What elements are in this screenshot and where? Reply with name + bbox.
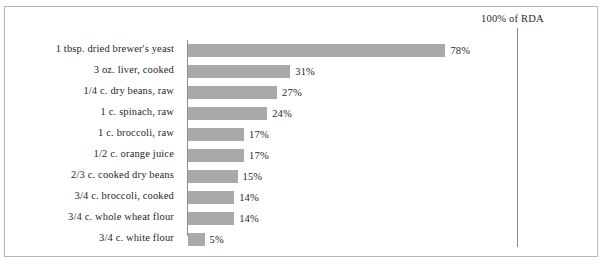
bar [188,65,290,78]
bar-value-label: 24% [272,108,292,119]
bar-wrapper: 78% [188,44,470,57]
bar [188,149,244,162]
bar-value-label: 31% [295,66,315,77]
bar-row: 3/4 c. whole wheat flour14% [5,210,597,231]
bar-row: 1/2 c. orange juice17% [5,147,597,168]
bar-category-label: 3 oz. liver, cooked [94,64,174,75]
bar [188,233,205,246]
bar [188,128,244,141]
plot-area: 100% of RDA 1 tbsp. dried brewer's yeast… [5,7,597,256]
bar-row: 3/4 c. white flour5% [5,231,597,252]
bar-wrapper: 17% [188,128,269,141]
bar-wrapper: 14% [188,191,259,204]
bar [188,191,234,204]
bar-value-label: 27% [282,87,302,98]
bar-category-label: 1 c. spinach, raw [101,106,174,117]
bar-value-label: 17% [249,150,269,161]
bar-row: 1/4 c. dry beans, raw27% [5,84,597,105]
bar [188,86,277,99]
bar-row: 3/4 c. broccoli, cooked14% [5,189,597,210]
bar-wrapper: 14% [188,212,259,225]
bar-category-label: 3/4 c. whole wheat flour [68,211,174,222]
bar-category-label: 1 tbsp. dried brewer's yeast [56,43,174,54]
rda-reference-label: 100% of RDA [481,13,544,24]
bar-value-label: 14% [239,192,259,203]
bar-category-label: 1 c. broccoli, raw [98,127,174,138]
bar [188,44,445,57]
bar-category-label: 1/2 c. orange juice [94,148,174,159]
bar-value-label: 5% [210,234,224,245]
bar-wrapper: 31% [188,65,315,78]
bar [188,170,238,183]
bar-value-label: 17% [249,129,269,140]
bar-category-label: 3/4 c. broccoli, cooked [75,190,174,201]
bar-value-label: 78% [450,45,470,56]
bar [188,212,234,225]
bar-rows: 1 tbsp. dried brewer's yeast78%3 oz. liv… [5,42,597,252]
chart-frame: 100% of RDA 1 tbsp. dried brewer's yeast… [4,6,598,257]
bar-wrapper: 5% [188,233,224,246]
bar-row: 3 oz. liver, cooked31% [5,63,597,84]
bar-value-label: 14% [239,213,259,224]
bar-row: 1 c. broccoli, raw17% [5,126,597,147]
bar-row: 1 tbsp. dried brewer's yeast78% [5,42,597,63]
bar-row: 1 c. spinach, raw24% [5,105,597,126]
bar-wrapper: 15% [188,170,262,183]
bar-wrapper: 24% [188,107,292,120]
bar-value-label: 15% [243,171,263,182]
bar-row: 2/3 c. cooked dry beans15% [5,168,597,189]
bar-category-label: 1/4 c. dry beans, raw [83,85,174,96]
bar [188,107,267,120]
bar-category-label: 2/3 c. cooked dry beans [71,169,174,180]
bar-category-label: 3/4 c. white flour [99,232,174,243]
bar-wrapper: 17% [188,149,269,162]
bar-wrapper: 27% [188,86,302,99]
